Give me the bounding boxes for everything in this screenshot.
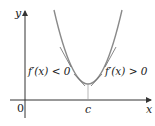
decreasing-annotation: f′(x) < 0 bbox=[28, 66, 71, 77]
increasing-annotation: f′(x) > 0 bbox=[105, 66, 148, 77]
x-axis-label: x bbox=[146, 104, 152, 115]
tangent-line-left-2 bbox=[74, 74, 85, 86]
derivative-sign-diagram: y x 0 c f′(x) < 0 f′(x) > 0 bbox=[0, 0, 155, 126]
critical-point-label: c bbox=[85, 104, 91, 115]
tangent-line-right-1 bbox=[91, 74, 102, 86]
origin-label: 0 bbox=[17, 103, 24, 114]
y-axis-label: y bbox=[15, 8, 21, 19]
